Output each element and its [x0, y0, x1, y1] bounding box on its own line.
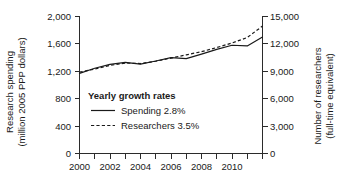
right-axis-title-line1: Number of researchers [312, 47, 323, 144]
legend-label-spending: Spending 2.8% [121, 105, 186, 116]
left-ticklabel-1200: 1,200 [47, 66, 71, 77]
chart-container: 2,000 1,600 1,200 800 400 0 Research spe… [0, 0, 346, 183]
plot-series-group [80, 26, 263, 73]
right-ticklabel-3000: 3,000 [270, 121, 294, 132]
right-ticklabel-12000: 12,000 [270, 38, 299, 49]
legend: Yearly growth rates Spending 2.8% Resear… [88, 90, 200, 131]
x-ticklabel-2004: 2004 [130, 161, 151, 172]
right-ticklabel-6000: 6,000 [270, 93, 294, 104]
x-ticklabel-2002: 2002 [99, 161, 120, 172]
left-axis-title-line1: Research spending [4, 51, 15, 133]
x-ticklabel-2010: 2010 [221, 161, 242, 172]
right-ticklabel-0: 0 [270, 148, 275, 159]
right-ticklabel-9000: 9,000 [270, 66, 294, 77]
left-ticklabel-400: 400 [55, 121, 71, 132]
left-axis-title: Research spending (million 2005 PPP doll… [4, 37, 27, 146]
legend-label-researchers: Researchers 3.5% [121, 120, 200, 131]
right-ticklabel-15000: 15,000 [270, 11, 299, 22]
x-ticklabel-2006: 2006 [160, 161, 181, 172]
right-axis-title: Number of researchers (full-time equival… [312, 47, 335, 144]
left-axis: 2,000 1,600 1,200 800 400 0 [47, 11, 79, 159]
legend-title: Yearly growth rates [88, 90, 176, 101]
x-axis: 2000 2002 2004 2006 2008 2010 [69, 154, 263, 173]
left-ticklabel-2000: 2,000 [47, 11, 71, 22]
x-ticklabel-2000: 2000 [69, 161, 90, 172]
right-axis: 15,000 12,000 9,000 6,000 3,000 0 [263, 11, 300, 159]
left-axis-title-line2: (million 2005 PPP dollars) [16, 37, 27, 146]
left-ticklabel-800: 800 [55, 93, 71, 104]
left-ticklabel-0: 0 [66, 148, 71, 159]
right-axis-title-line2: (full-time equivalent) [324, 53, 335, 139]
left-ticklabel-1600: 1,600 [47, 38, 71, 49]
x-ticklabel-2008: 2008 [191, 161, 212, 172]
research-spending-researchers-line-chart: 2,000 1,600 1,200 800 400 0 Research spe… [0, 0, 346, 183]
